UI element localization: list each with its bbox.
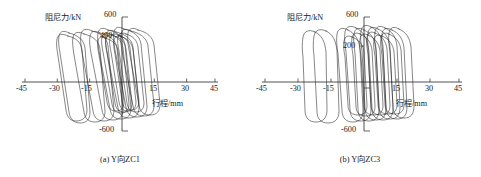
y-tick-inner-b: 200	[343, 41, 355, 50]
x-tick-a-2: -15	[81, 84, 92, 93]
x-tick-b-5: 45	[454, 84, 462, 93]
panel-caption-b: (b) Y向ZC3	[240, 152, 480, 164]
y-tick-top-b: 600	[346, 10, 358, 19]
x-tick-a-5: 45	[210, 84, 218, 93]
plot-area-a: 阻尼力/kN 600 400 -600 -45 -30 -15 15 30 45…	[0, 0, 240, 150]
y-tick-top-a: 600	[104, 10, 116, 19]
x-axis-label-b: 行程/mm	[396, 96, 427, 108]
x-tick-b-2: -15	[323, 84, 334, 93]
caption-text-a: (a) Y向ZC1	[100, 155, 140, 164]
hysteresis-loops-a	[57, 27, 160, 123]
x-axis-label-a: 行程/mm	[152, 96, 183, 108]
y-axis-label-a: 阻尼力/kN	[45, 10, 81, 22]
plot-svg-a	[0, 0, 240, 150]
figure-root: 阻尼力/kN 600 400 -600 -45 -30 -15 15 30 45…	[0, 0, 481, 177]
x-tick-a-3: 15	[149, 84, 157, 93]
y-axis-label-b: 阻尼力/kN	[287, 10, 323, 22]
x-tick-a-1: -30	[49, 84, 60, 93]
x-tick-b-0: -45	[256, 84, 267, 93]
x-tick-a-4: 30	[181, 84, 189, 93]
x-tick-b-4: 30	[425, 84, 433, 93]
y-tick-bottom-a: -600	[99, 125, 114, 134]
x-axis-b	[262, 79, 462, 83]
x-tick-a-0: -45	[16, 84, 27, 93]
chart-panel-a: 阻尼力/kN 600 400 -600 -45 -30 -15 15 30 45…	[0, 0, 240, 177]
panel-caption-a: (a) Y向ZC1	[0, 152, 240, 164]
hysteresis-loops-b	[302, 25, 414, 123]
chart-panel-b: 阻尼力/kN 600 200 -600 -45 -30 -15 15 30 45…	[240, 0, 480, 177]
x-tick-b-1: -30	[290, 84, 301, 93]
x-tick-b-3: 15	[392, 84, 400, 93]
plot-svg-b	[240, 0, 480, 150]
caption-text-b: (b) Y向ZC3	[340, 155, 381, 164]
plot-area-b: 阻尼力/kN 600 200 -600 -45 -30 -15 15 30 45…	[240, 0, 480, 150]
y-tick-bottom-b: -600	[341, 125, 356, 134]
y-tick-inner-a: 400	[100, 31, 112, 40]
